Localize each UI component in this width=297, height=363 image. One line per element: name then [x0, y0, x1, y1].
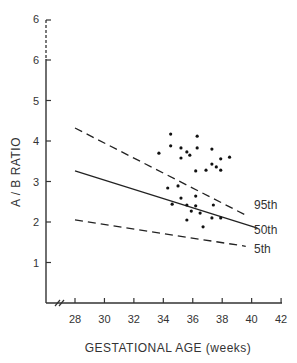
data-point	[219, 169, 222, 172]
y-tick-label: 1	[33, 257, 39, 269]
x-tick-label: 34	[157, 313, 169, 325]
x-tick-label: 36	[187, 313, 199, 325]
scatter-points	[157, 133, 231, 229]
data-point	[176, 184, 179, 187]
data-point	[179, 197, 182, 200]
data-point	[219, 216, 222, 219]
data-point	[204, 169, 207, 172]
data-point	[179, 156, 182, 159]
x-tick-label: 32	[128, 313, 140, 325]
percentile-lines	[75, 128, 258, 246]
data-point	[210, 216, 213, 219]
data-point	[212, 203, 215, 206]
y-tick-label: 3	[33, 176, 39, 188]
data-point	[215, 165, 218, 168]
data-point	[201, 225, 204, 228]
y-top-tick-label: 6	[33, 13, 39, 25]
x-tick-label: 28	[69, 313, 81, 325]
y-ticks: 123456	[33, 54, 51, 269]
data-point	[169, 144, 172, 147]
data-point	[166, 186, 169, 189]
data-point	[190, 209, 193, 212]
data-point	[194, 194, 197, 197]
x-ticks: 2830323436384042	[69, 298, 287, 325]
chart: 123456 2830323436384042 6 95th 50th 5th …	[0, 0, 297, 363]
y-tick-label: 6	[33, 54, 39, 66]
data-point	[199, 211, 202, 214]
label-5th: 5th	[254, 242, 271, 256]
y-tick-label: 2	[33, 216, 39, 228]
data-point	[194, 169, 197, 172]
percentile-line-5th	[75, 220, 246, 246]
data-point	[157, 152, 160, 155]
x-axis-title: GESTATIONAL AGE (weeks)	[85, 341, 252, 355]
percentile-line-50th	[75, 171, 258, 228]
y-tick-label: 4	[33, 135, 39, 147]
data-point	[179, 146, 182, 149]
y-axis-title: A / B RATIO	[9, 137, 23, 207]
x-tick-label: 42	[275, 313, 287, 325]
data-point	[185, 203, 188, 206]
x-tick-label: 38	[216, 313, 228, 325]
data-point	[169, 133, 172, 136]
data-point	[196, 146, 199, 149]
label-50th: 50th	[254, 223, 277, 237]
data-point	[228, 156, 231, 159]
data-point	[210, 162, 213, 165]
data-point	[185, 218, 188, 221]
data-point	[219, 157, 222, 160]
data-point	[196, 135, 199, 138]
label-95th: 95th	[254, 198, 277, 212]
y-tick-label: 5	[33, 95, 39, 107]
x-tick-label: 30	[98, 313, 110, 325]
data-point	[194, 204, 197, 207]
data-point	[171, 203, 174, 206]
data-point	[210, 148, 213, 151]
x-tick-label: 40	[246, 313, 258, 325]
data-point	[185, 150, 188, 153]
data-point	[188, 154, 191, 157]
